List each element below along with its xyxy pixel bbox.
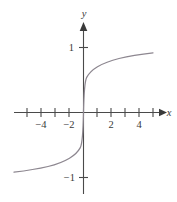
- graph-figure: −4 −2 2 4 1 −1 x y: [0, 0, 177, 202]
- y-label-1: 1: [69, 42, 74, 53]
- y-label-minus1: −1: [64, 172, 75, 183]
- y-axis-label: y: [81, 8, 87, 19]
- y-axis-arrow-icon: [80, 22, 88, 31]
- x-label-2: 2: [108, 119, 113, 130]
- x-axis-label: x: [166, 107, 172, 118]
- x-label-4: 4: [136, 119, 142, 130]
- x-label-minus2: −2: [63, 119, 74, 130]
- x-label-minus4: −4: [35, 119, 47, 130]
- x-axis: [14, 108, 167, 117]
- plot-canvas: −4 −2 2 4 1 −1 x y: [0, 0, 177, 202]
